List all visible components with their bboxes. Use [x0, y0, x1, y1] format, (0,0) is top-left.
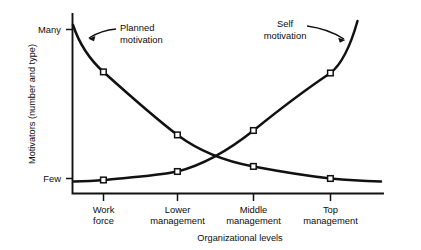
x-label-top-management-line1: Top — [323, 204, 338, 215]
x-label-work-force-line1: Work — [93, 204, 115, 215]
series-self-motivation — [74, 21, 358, 183]
x-axis-title: Organizational levels — [197, 233, 283, 243]
self-motivation-point-top-management — [328, 70, 334, 76]
x-label-work-force-line2: force — [93, 215, 114, 226]
planned-motivation-annotation-line1: Planned — [120, 22, 154, 33]
axes — [66, 14, 383, 201]
x-label-lower-management-line1: Lower — [165, 204, 191, 215]
self-motivation-annotation-line2: motivation — [264, 30, 307, 41]
chart-figure: Many Few Motivators (number and type) Wo… — [0, 0, 421, 250]
x-label-middle-management-line1: Middle — [240, 204, 268, 215]
x-axis-category-labels: Work force Lower management Middle manag… — [93, 204, 359, 226]
self-motivation-point-middle-management — [251, 128, 257, 134]
planned-motivation-leader-line — [89, 29, 116, 38]
annotation-planned-motivation: Planned motivation — [88, 22, 162, 45]
x-label-lower-management-line2: management — [150, 215, 205, 226]
planned-motivation-point-top-management — [328, 176, 334, 182]
planned-motivation-annotation-line2: motivation — [120, 34, 163, 45]
self-motivation-point-work-force — [101, 177, 107, 183]
motivators-vs-organizational-levels-chart: Many Few Motivators (number and type) Wo… — [0, 0, 421, 250]
y-axis-label-few: Few — [43, 173, 61, 184]
planned-motivation-curve — [73, 25, 381, 182]
y-axis-label-many: Many — [38, 24, 61, 35]
planned-motivation-point-lower-management — [175, 132, 181, 138]
planned-motivation-point-work-force — [101, 69, 107, 75]
series-planned-motivation — [73, 25, 381, 182]
self-motivation-curve — [74, 21, 358, 182]
self-motivation-annotation-line1: Self — [277, 18, 294, 29]
self-motivation-arrowhead — [338, 38, 345, 43]
self-motivation-point-lower-management — [175, 169, 181, 175]
self-motivation-leader-line — [307, 26, 344, 39]
annotation-self-motivation: Self motivation — [264, 18, 346, 43]
planned-motivation-point-middle-management — [251, 164, 257, 170]
y-axis-title: Motivators (number and type) — [27, 44, 37, 164]
x-label-middle-management-line2: management — [226, 215, 281, 226]
x-label-top-management-line2: management — [303, 215, 358, 226]
